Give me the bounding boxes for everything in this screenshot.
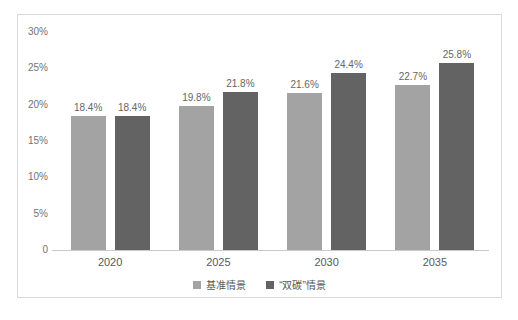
legend-item-2: “双碳”情景 bbox=[266, 277, 326, 292]
bar-group-2025: 19.8%21.8% bbox=[164, 32, 272, 250]
bar-value-label: 18.4% bbox=[118, 102, 146, 113]
x-axis-label: 2025 bbox=[164, 256, 272, 268]
x-axis-label: 2035 bbox=[381, 256, 489, 268]
y-tick-label: 10% bbox=[18, 172, 48, 182]
x-axis-line bbox=[52, 250, 489, 251]
screenshot-root: 30%25%20%15%10%5%0 18.4%18.4%19.8%21.8%2… bbox=[0, 0, 518, 320]
y-tick-label: 15% bbox=[18, 136, 48, 146]
bar-group-2035: 22.7%25.8% bbox=[381, 32, 489, 250]
bar-2035-series-1 bbox=[395, 85, 430, 250]
bar-2030-series-2 bbox=[331, 73, 366, 250]
bar-2020-series-1 bbox=[71, 116, 106, 250]
y-tick-label: 25% bbox=[18, 63, 48, 73]
bar-value-label: 21.8% bbox=[226, 78, 254, 89]
bar-2035-series-2 bbox=[439, 63, 474, 250]
bar-2025-series-1 bbox=[179, 106, 214, 250]
bar-value-label: 24.4% bbox=[334, 59, 362, 70]
x-axis-label: 2020 bbox=[56, 256, 164, 268]
bar-2025-series-2 bbox=[223, 92, 258, 250]
plot-area: 18.4%18.4%19.8%21.8%21.6%24.4%22.7%25.8% bbox=[56, 32, 489, 250]
legend-label: 基准情景 bbox=[206, 277, 246, 292]
legend-swatch-icon bbox=[193, 281, 201, 289]
bar-value-label: 19.8% bbox=[182, 92, 210, 103]
y-tick-label: 5% bbox=[18, 209, 48, 219]
bar-value-label: 21.6% bbox=[290, 79, 318, 90]
bar-group-2030: 21.6%24.4% bbox=[273, 32, 381, 250]
bar-value-label: 25.8% bbox=[443, 49, 471, 60]
bar-2030-series-1 bbox=[287, 93, 322, 250]
bar-group-2020: 18.4%18.4% bbox=[56, 32, 164, 250]
bar-value-label: 18.4% bbox=[74, 102, 102, 113]
chart-frame: 30%25%20%15%10%5%0 18.4%18.4%19.8%21.8%2… bbox=[17, 14, 502, 298]
legend-item-1: 基准情景 bbox=[193, 277, 246, 292]
y-tick-label: 30% bbox=[18, 27, 48, 37]
legend: 基准情景“双碳”情景 bbox=[18, 277, 501, 292]
y-tick-label: 20% bbox=[18, 100, 48, 110]
bar-2020-series-2 bbox=[115, 116, 150, 250]
legend-swatch-icon bbox=[266, 281, 274, 289]
x-axis-label: 2030 bbox=[273, 256, 381, 268]
bar-value-label: 22.7% bbox=[399, 71, 427, 82]
legend-label: “双碳”情景 bbox=[279, 277, 326, 292]
y-tick-label: 0 bbox=[18, 245, 48, 255]
